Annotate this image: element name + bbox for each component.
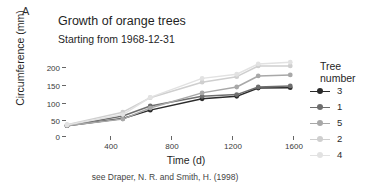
data-point <box>256 74 261 79</box>
legend-point-swatch <box>317 88 323 94</box>
legend-item-2[interactable]: 2 <box>310 133 374 146</box>
data-point <box>288 73 293 78</box>
figure-panel: A Growth of orange trees Starting from 1… <box>0 0 382 194</box>
legend-title-line1: Tree <box>320 60 356 72</box>
data-point <box>65 123 70 128</box>
data-point <box>288 84 293 89</box>
legend-item-label: 3 <box>337 85 342 96</box>
data-point <box>288 60 293 65</box>
legend-item-label: 5 <box>337 117 342 128</box>
data-point <box>234 72 239 77</box>
legend-point-swatch <box>317 120 323 126</box>
data-point <box>234 85 239 90</box>
data-point <box>148 106 153 111</box>
data-point <box>200 90 205 95</box>
series-2 <box>65 64 293 127</box>
data-point <box>148 95 153 100</box>
data-point <box>120 112 125 117</box>
series-line <box>67 62 290 125</box>
data-point <box>120 117 125 122</box>
legend-point-swatch <box>317 136 323 142</box>
legend-item-label: 2 <box>337 133 342 144</box>
legend-item-label: 1 <box>337 101 342 112</box>
legend-title-line2: number <box>320 72 356 84</box>
legend-point-swatch <box>317 152 323 158</box>
legend-item-4[interactable]: 4 <box>310 149 374 162</box>
series-line <box>67 86 290 126</box>
legend-title: Tree number <box>320 60 356 84</box>
legend-point-swatch <box>317 104 323 110</box>
legend-item-5[interactable]: 5 <box>310 117 374 130</box>
data-point <box>256 61 261 66</box>
data-point <box>200 76 205 81</box>
data-point <box>234 92 239 97</box>
data-point <box>256 85 261 90</box>
legend-item-label: 4 <box>337 149 342 160</box>
legend-item-1[interactable]: 1 <box>310 101 374 114</box>
chart-caption: see Draper, N. R. and Smith, H. (1998) <box>0 172 330 182</box>
legend-item-3[interactable]: 3 <box>310 85 374 98</box>
